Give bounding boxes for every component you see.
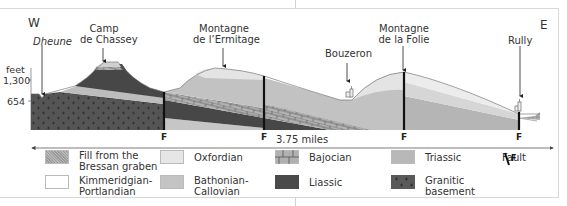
label-line: Montagne	[378, 23, 430, 34]
elevation-tick-654: 654	[7, 96, 25, 107]
church-icon-rully	[515, 99, 521, 111]
legend-item-oxfordian: Oxfordian	[160, 150, 243, 164]
label-line: de l’Ermitage	[193, 34, 255, 45]
legend: Fill from theBressan graben Kimmeridgian…	[0, 146, 560, 196]
legend-item-liassic: Liassic	[275, 175, 342, 189]
oxfordian-cap	[96, 62, 121, 67]
label-line: de Chassey	[80, 34, 128, 45]
legend-item-bajocian: Bajocian	[275, 150, 352, 164]
legend-item-fault: F Fault	[502, 152, 526, 163]
legend-label: basement	[425, 186, 475, 197]
label-line: Bouzeron	[325, 48, 371, 59]
legend-label: Fill from the	[79, 150, 157, 161]
legend-item-bathonian: Bathonian-Callovian	[160, 175, 249, 197]
legend-item-kimmeridgian: Kimmeridgian-Portlandian	[45, 175, 152, 197]
fault-symbol-icon: F	[502, 152, 520, 166]
legend-label: Triassic	[425, 152, 461, 163]
west-label: W	[28, 16, 40, 30]
light-gray-swatch-icon	[160, 150, 184, 164]
place-label-rully: Rully	[508, 35, 532, 46]
legend-item-granitic: Graniticbasement	[391, 175, 475, 197]
gray-swatch-icon	[391, 150, 415, 164]
legend-label: Liassic	[309, 177, 342, 188]
fault-label-2: F	[261, 132, 267, 142]
dark-swatch-icon	[275, 175, 299, 189]
legend-label: Oxfordian	[194, 152, 243, 163]
brick-swatch-icon	[275, 150, 299, 164]
legend-label: Portlandian	[79, 186, 152, 197]
white-swatch-icon	[45, 175, 69, 189]
place-label-montagne-folie: Montagne de la Folie	[378, 23, 430, 45]
legend-label: Kimmeridgian-	[79, 175, 152, 186]
legend-item-fill-bressan: Fill from theBressan graben	[45, 150, 157, 172]
fault-label-1: F	[161, 132, 167, 142]
elevation-unit: feet	[6, 64, 25, 75]
fault-label-4: F	[516, 132, 522, 142]
svg-text:F: F	[511, 154, 516, 163]
place-label-dheune: Dheune	[33, 36, 72, 47]
legend-label: Bressan graben	[79, 161, 157, 172]
speckle-swatch-icon	[45, 150, 69, 164]
place-label-montagne-ermitage: Montagne de l’Ermitage	[193, 23, 255, 45]
granite-swatch-icon	[391, 175, 415, 189]
east-label: E	[540, 18, 548, 32]
legend-item-triassic: Triassic	[391, 150, 461, 164]
church-icon-bouzeron	[346, 86, 353, 97]
legend-label: Callovian	[194, 186, 249, 197]
label-line: Camp	[80, 23, 128, 34]
label-line: Rully	[508, 35, 532, 46]
label-line: de la Folie	[378, 34, 430, 45]
legend-label: Granitic	[425, 175, 475, 186]
place-label-bouzeron: Bouzeron	[325, 48, 371, 59]
legend-label: Bathonian-	[194, 175, 249, 186]
label-line: Montagne	[193, 23, 255, 34]
place-label-camp-de-chassey: Camp de Chassey	[80, 23, 128, 45]
elevation-tick-1300: 1,300	[3, 75, 30, 86]
fault-label-3: F	[401, 132, 407, 142]
scale-bar-label: 3.75 miles	[276, 134, 328, 145]
legend-label: Bajocian	[309, 152, 352, 163]
mid-gray-swatch-icon	[160, 175, 184, 189]
